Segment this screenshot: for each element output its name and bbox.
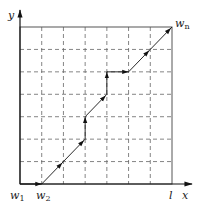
label-w1: w1: [10, 189, 25, 203]
warping-path: [20, 27, 172, 184]
label-w2: w2: [36, 189, 51, 203]
y-axis-label: y: [7, 9, 15, 22]
path-segment: [129, 49, 151, 71]
path-arrow-icon: [146, 53, 147, 54]
x-axis-label: x: [182, 189, 189, 202]
label-wn: wn: [175, 17, 190, 31]
path-arrow-icon: [59, 165, 60, 166]
path-arrow-icon: [168, 30, 169, 31]
x-end-tick-label: l: [169, 189, 173, 202]
path-arrow-icon: [81, 143, 82, 144]
path-segment: [63, 139, 85, 161]
warping-path-diagram: y x l w1 w2 wn: [0, 0, 198, 210]
path-arrow-icon: [103, 98, 104, 99]
path-segment: [150, 27, 172, 49]
